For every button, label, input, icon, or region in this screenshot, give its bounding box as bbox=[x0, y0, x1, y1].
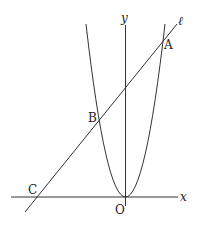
line-label: ℓ bbox=[178, 14, 183, 28]
y-axis-label: y bbox=[120, 11, 128, 25]
line-l bbox=[25, 24, 177, 212]
point-c-label: C bbox=[28, 183, 37, 197]
point-a-label: A bbox=[163, 38, 173, 52]
origin-label: O bbox=[115, 203, 125, 217]
point-b-label: B bbox=[88, 111, 97, 125]
diagram-canvas: y x ℓ A B C O bbox=[0, 0, 199, 230]
x-axis-label: x bbox=[180, 190, 187, 204]
